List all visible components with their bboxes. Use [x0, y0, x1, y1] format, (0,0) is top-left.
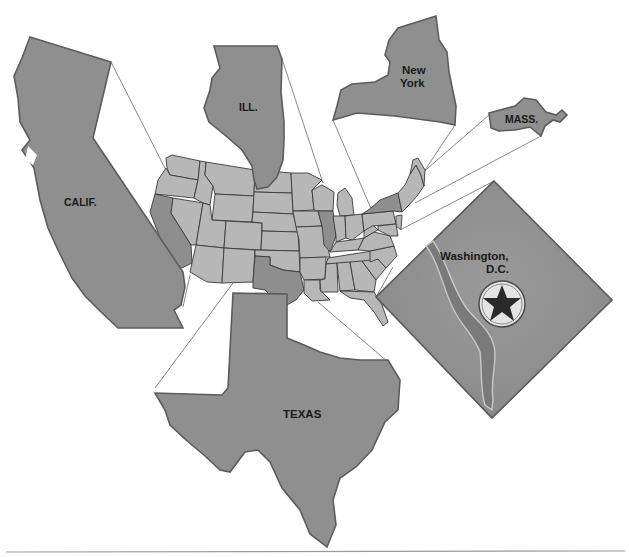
dc-label-line2: D.C. — [486, 263, 509, 275]
state-ohio — [345, 214, 364, 240]
state-arkansas — [300, 257, 326, 280]
callout-texas: TEXAS — [155, 293, 400, 547]
state-wyoming — [212, 194, 254, 222]
state-new-mexico — [222, 248, 255, 283]
callout-massachusetts: MASS. — [489, 98, 567, 136]
state-colorado — [224, 221, 262, 250]
texas-shape — [155, 293, 400, 547]
new-york-label-line2: York — [400, 77, 425, 89]
connector-california-top — [111, 62, 170, 178]
new-york-label-line1: New — [402, 64, 426, 76]
capital-star-icon — [479, 281, 525, 327]
connector-illinois — [282, 59, 323, 183]
connector-newyork-right — [425, 125, 455, 170]
california-label: CALIF. — [64, 196, 97, 208]
callout-washington-dc: Washington, D.C. — [376, 181, 612, 418]
illinois-label: ILL. — [239, 101, 258, 113]
state-michigan — [337, 188, 354, 216]
massachusetts-label: MASS. — [505, 113, 538, 125]
connector-mass-right — [415, 136, 541, 203]
state-new-york-small — [362, 193, 402, 214]
state-iowa — [293, 211, 322, 227]
state-south-dakota — [253, 192, 293, 214]
state-kansas — [261, 231, 299, 251]
dc-label-line1: Washington, — [440, 250, 509, 262]
bottom-divider — [6, 551, 625, 552]
new-york-shape — [333, 16, 456, 125]
texas-label: TEXAS — [283, 408, 322, 420]
state-arizona — [190, 245, 224, 283]
callout-new-york: New York — [333, 16, 456, 125]
state-wisconsin — [312, 185, 334, 211]
us-map-diagram: CALIF. ILL. New York MASS. Washington, D… — [0, 0, 629, 557]
